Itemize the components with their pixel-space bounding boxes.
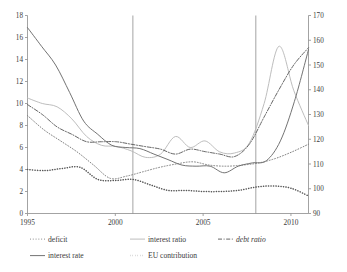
series-line-EU-contribution bbox=[28, 167, 309, 196]
left-axis-tick-label: 10 bbox=[16, 100, 24, 108]
x-axis-tick-label: 1995 bbox=[20, 218, 35, 227]
left-axis-tick-label: 14 bbox=[16, 56, 24, 64]
series-line-debt-ratio bbox=[28, 48, 309, 157]
x-axis-tick-label: 2005 bbox=[196, 218, 211, 227]
line-chart: 0246810121416189010011012013014015016017… bbox=[0, 0, 347, 272]
right-axis-tick-label: 120 bbox=[313, 136, 324, 144]
left-axis-tick-label: 12 bbox=[16, 78, 24, 86]
right-axis-tick-label: 150 bbox=[313, 62, 324, 70]
right-axis-tick-label: 90 bbox=[313, 210, 321, 218]
chart-container: 0246810121416189010011012013014015016017… bbox=[0, 0, 347, 272]
legend-label-debt-ratio: debt ratio bbox=[236, 235, 266, 244]
legend-label-deficit: deficit bbox=[48, 235, 68, 244]
right-axis-tick-label: 100 bbox=[313, 185, 324, 193]
series-line-interest-rate bbox=[28, 28, 309, 173]
left-axis-tick-label: 8 bbox=[19, 122, 23, 130]
chart-axes bbox=[28, 16, 309, 214]
series-line-deficit bbox=[28, 116, 309, 179]
right-axis-tick-label: 130 bbox=[313, 111, 324, 119]
legend-label-interest-ratio: interest ratio bbox=[148, 235, 186, 244]
left-axis-tick-label: 16 bbox=[16, 34, 24, 42]
series-line-interest-ratio bbox=[28, 46, 309, 157]
left-axis-tick-label: 2 bbox=[19, 188, 23, 196]
left-axis-tick-label: 6 bbox=[19, 144, 23, 152]
x-axis-tick-label: 2000 bbox=[108, 218, 123, 227]
legend-label-interest-rate: interest rate bbox=[48, 251, 84, 260]
right-axis-tick-label: 110 bbox=[313, 161, 324, 169]
left-axis-tick-label: 18 bbox=[16, 12, 24, 20]
right-axis-tick-label: 160 bbox=[313, 37, 324, 45]
left-axis-tick-label: 4 bbox=[19, 166, 23, 174]
x-axis-tick-label: 2010 bbox=[284, 218, 299, 227]
right-axis-tick-label: 170 bbox=[313, 12, 324, 20]
right-axis-tick-label: 140 bbox=[313, 86, 324, 94]
legend-label-EU-contribution: EU contribution bbox=[148, 251, 197, 260]
